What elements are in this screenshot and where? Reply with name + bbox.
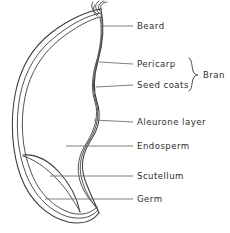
label-endosperm: Endosperm (137, 141, 190, 151)
scutellum-outer-curve (23, 155, 80, 212)
label-bran: Bran (203, 70, 225, 80)
label-pericarp: Pericarp (137, 59, 176, 69)
leader-line-seed-coats (96, 85, 133, 87)
grain-outline-group (12, 9, 103, 223)
leader-line-pericarp (99, 62, 133, 64)
beard-hair-1 (101, 2, 107, 9)
wheat-grain-diagram: Beard Pericarp Seed coats Aleurone layer… (0, 0, 230, 233)
leader-lines-group (45, 26, 133, 199)
label-beard: Beard (137, 21, 165, 31)
label-scutellum: Scutellum (137, 171, 184, 181)
bran-brace-icon (189, 58, 198, 91)
bran-brace-group (189, 58, 198, 91)
pericarp-outer-line (12, 9, 101, 223)
label-germ: Germ (137, 194, 163, 204)
label-aleurone-layer: Aleurone layer (137, 117, 206, 127)
beard-hair-4 (92, 2, 98, 15)
seed-coat-middle-line (17, 13, 101, 218)
pericarp-wavy-line (83, 9, 103, 213)
label-text-group: Beard Pericarp Seed coats Aleurone layer… (137, 21, 225, 204)
label-seed-coats: Seed coats (137, 80, 189, 90)
scutellum-group (23, 155, 80, 212)
grain-illustration: Beard Pericarp Seed coats Aleurone layer… (0, 0, 230, 233)
aleurone-inner-line (22, 17, 100, 214)
leader-line-aleurone-layer (94, 120, 133, 122)
